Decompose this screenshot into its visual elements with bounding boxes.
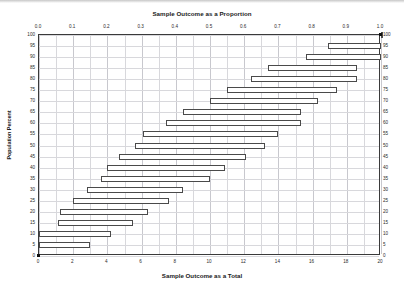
- y-tick-right-label: 30: [383, 186, 395, 191]
- y-tick-right-label: 35: [383, 175, 395, 180]
- interval-bar: [87, 187, 183, 193]
- x-tick-top-label: 0.1: [69, 24, 75, 29]
- interval-bar: [119, 154, 246, 160]
- y-tick-right-label: 0: [383, 253, 395, 258]
- x-tick-top-label: 0.0: [35, 24, 41, 29]
- y-tick-right-label: 20: [383, 208, 395, 213]
- x-tick-bottom-label: 6: [139, 259, 142, 264]
- x-tick-top-label: 0.7: [274, 24, 280, 29]
- y-tick-right-label: 75: [383, 87, 395, 92]
- x-tick-bottom-label: 2: [71, 259, 74, 264]
- x-tick-top-label: 0.8: [308, 24, 314, 29]
- y-tick-left-label: 80: [23, 76, 35, 81]
- x-tick-bottom-label: 10: [206, 259, 211, 264]
- y-tick-right-label: 65: [383, 109, 395, 114]
- interval-bar: [227, 87, 336, 93]
- y-tick-left-label: 70: [23, 98, 35, 103]
- x-tick-bottom-label: 12: [241, 259, 246, 264]
- x-tick-bottom-label: 0: [37, 259, 40, 264]
- y-tick-left-label: 100: [23, 32, 35, 37]
- y-tick-right-label: 40: [383, 164, 395, 169]
- y-tick-right-label: 45: [383, 153, 395, 158]
- y-tick-right-label: 95: [383, 43, 395, 48]
- x-tick-bottom-label: 18: [343, 259, 348, 264]
- interval-bar: [251, 76, 357, 82]
- y-tick-right-label: 5: [383, 241, 395, 246]
- y-tick-left-label: 45: [23, 153, 35, 158]
- x-tick-top-label: 0.6: [240, 24, 246, 29]
- gridline-horizontal: [39, 256, 379, 257]
- interval-bar: [58, 220, 133, 226]
- plot-area: [38, 34, 380, 255]
- y-tick-right-label: 90: [383, 54, 395, 59]
- y-tick-left-label: 15: [23, 219, 35, 224]
- x-tick-bottom-label: 14: [275, 259, 280, 264]
- interval-bar: [101, 176, 210, 182]
- x-tick-bottom-label: 8: [174, 259, 177, 264]
- y-axis-title: Population Percent: [6, 90, 12, 180]
- y-tick-left-label: 85: [23, 65, 35, 70]
- x-tick-top-label: 1.0: [377, 24, 383, 29]
- y-tick-right-label: 10: [383, 230, 395, 235]
- x-tick-bottom-label: 4: [105, 259, 108, 264]
- y-tick-left-label: 95: [23, 43, 35, 48]
- interval-bar: [183, 109, 301, 115]
- gridline-vertical: [381, 35, 382, 254]
- axis-corner-marker: [37, 254, 40, 257]
- interval-bar: [306, 54, 381, 60]
- x-tick-bottom-label: 20: [377, 259, 382, 264]
- y-tick-left-label: 90: [23, 54, 35, 59]
- interval-bar: [107, 165, 225, 171]
- y-tick-right-label: 70: [383, 98, 395, 103]
- y-tick-left-label: 50: [23, 142, 35, 147]
- x-tick-top-label: 0.2: [103, 24, 109, 29]
- x-tick-top-label: 0.5: [206, 24, 212, 29]
- interval-bar: [39, 231, 111, 237]
- y-tick-left-label: 10: [23, 230, 35, 235]
- y-tick-left-label: 5: [23, 241, 35, 246]
- y-tick-left-label: 30: [23, 186, 35, 191]
- interval-bar: [210, 98, 318, 104]
- interval-bar: [73, 198, 169, 204]
- interval-bar: [268, 65, 357, 71]
- y-tick-left-label: 20: [23, 208, 35, 213]
- y-tick-right-label: 80: [383, 76, 395, 81]
- chart-title-top: Sample Outcome as a Proportion: [0, 10, 404, 17]
- axis-corner-marker: [379, 33, 382, 36]
- interval-bar: [328, 43, 381, 49]
- y-tick-left-label: 0: [23, 253, 35, 258]
- y-tick-left-label: 55: [23, 131, 35, 136]
- scan-artifact-band: [0, 0, 404, 3]
- interval-bar: [143, 131, 278, 137]
- y-tick-right-label: 25: [383, 197, 395, 202]
- interval-bar: [60, 209, 149, 215]
- y-tick-left-label: 25: [23, 197, 35, 202]
- y-tick-right-label: 15: [383, 219, 395, 224]
- interval-bar: [166, 120, 301, 126]
- chart-title-bottom: Sample Outcome as a Total: [0, 272, 404, 279]
- y-tick-right-label: 85: [383, 65, 395, 70]
- y-tick-left-label: 75: [23, 87, 35, 92]
- interval-bar: [135, 143, 265, 149]
- y-tick-right-label: 100: [383, 32, 395, 37]
- y-tick-right-label: 50: [383, 142, 395, 147]
- y-tick-left-label: 65: [23, 109, 35, 114]
- gridline-horizontal: [39, 35, 379, 36]
- gridline-horizontal: [39, 101, 379, 102]
- y-tick-right-label: 60: [383, 120, 395, 125]
- y-tick-left-label: 60: [23, 120, 35, 125]
- x-tick-bottom-label: 16: [309, 259, 314, 264]
- y-tick-right-label: 55: [383, 131, 395, 136]
- x-tick-top-label: 0.9: [343, 24, 349, 29]
- chart-canvas: Sample Outcome as a Proportion Sample Ou…: [0, 0, 404, 288]
- interval-bar: [39, 242, 90, 248]
- y-tick-left-label: 40: [23, 164, 35, 169]
- y-tick-left-label: 35: [23, 175, 35, 180]
- x-tick-top-label: 0.4: [172, 24, 178, 29]
- x-tick-top-label: 0.3: [137, 24, 143, 29]
